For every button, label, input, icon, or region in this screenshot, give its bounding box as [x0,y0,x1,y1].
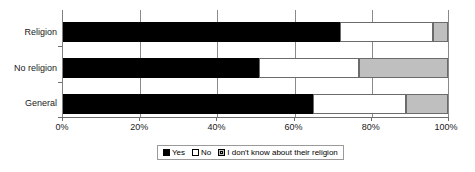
white-square-icon [192,149,199,156]
x-tick-80 [371,117,372,121]
x-axis-label-40: 40% [207,122,225,133]
x-axis-label-0: 0% [55,122,68,133]
legend-item-no: No [192,148,211,157]
y-axis-label-general: General [0,98,57,109]
plot-area [62,10,448,117]
y-axis-label-no-religion: No religion [0,63,57,74]
bar-segment-general-no [313,94,405,114]
bar-row-religion [63,22,449,42]
x-tick-60 [294,117,295,121]
x-axis-label-80: 80% [362,122,380,133]
bar-segment-no-religion-yes [63,58,259,78]
x-axis-label-60: 60% [285,122,303,133]
legend-item-yes: Yes [163,148,185,157]
x-tick-0 [62,117,63,121]
bar-segment-no-religion-no [259,58,359,78]
legend-label-no: No [201,148,211,157]
bar-row-no-religion [63,58,449,78]
y-tick-religion [58,46,62,47]
legend-label-dont-know: I don't know about their religion [227,148,337,157]
x-axis-label-100: 100% [434,122,457,133]
y-tick-general [58,117,62,118]
x-tick-40 [216,117,217,121]
bar-segment-religion-dont-know [433,22,448,42]
bar-segment-religion-no [340,22,432,42]
y-axis-label-religion: Religion [0,27,57,38]
bar-row-general [63,94,449,114]
bar-segment-religion-yes [63,22,340,42]
legend-label-yes: Yes [172,148,185,157]
bar-segment-general-yes [63,94,313,114]
black-square-icon [163,149,170,156]
x-tick-20 [139,117,140,121]
bar-segment-no-religion-dont-know [359,58,448,78]
legend-item-dont-know: I don't know about their religion [218,148,337,157]
stacked-bar-chart: Religion No religion General 0% 20% 40% … [0,0,475,172]
gray-square-icon [218,149,225,156]
y-tick-no-religion [58,82,62,83]
x-axis-line [62,117,449,118]
chart-legend: Yes No I don't know about their religion [157,145,344,160]
bar-segment-general-dont-know [406,94,448,114]
x-axis-label-20: 20% [130,122,148,133]
x-tick-100 [448,117,449,121]
